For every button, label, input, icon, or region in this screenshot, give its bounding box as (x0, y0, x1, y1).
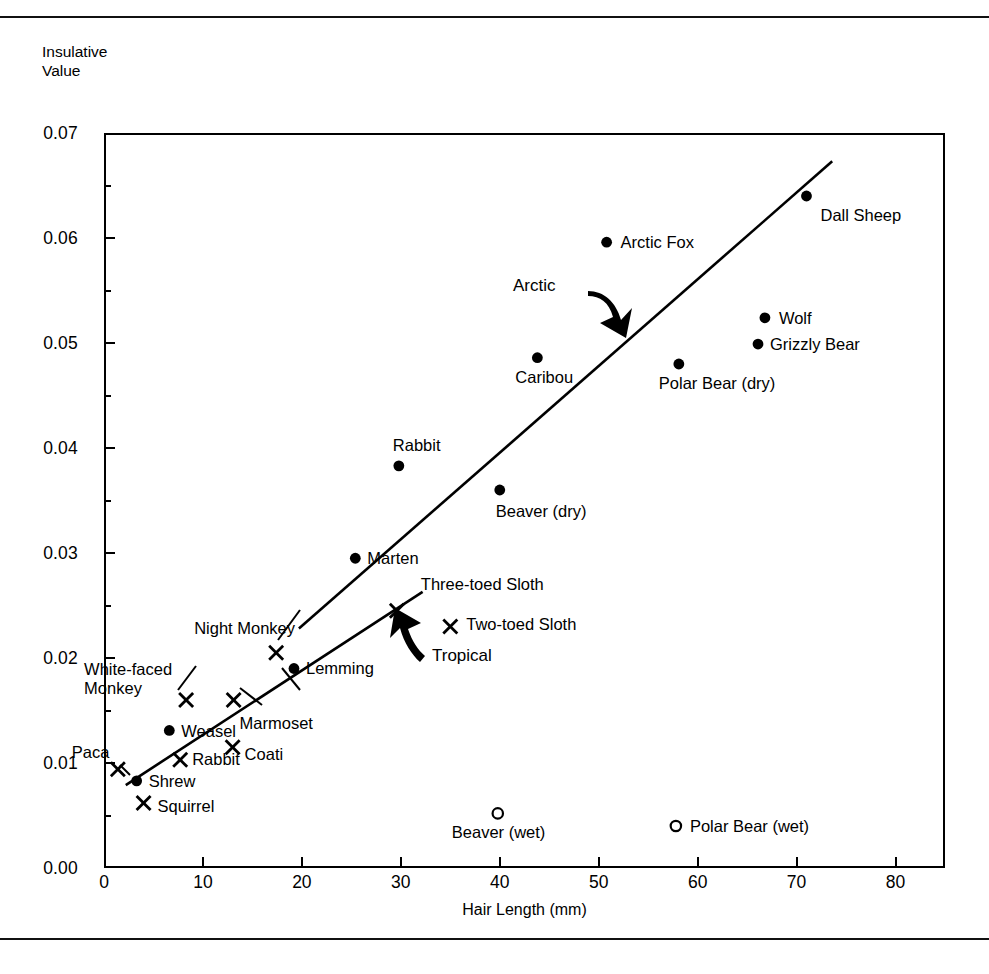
marker-filled-circle-grizzly-bear (753, 339, 764, 350)
marker-cross-paca (111, 762, 125, 776)
point-label-arctic-fox: Arctic Fox (621, 233, 694, 251)
marker-cross-marmoset (227, 693, 241, 707)
annotation-arrow-group (390, 291, 632, 662)
point-label-shrew: Shrew (149, 772, 196, 790)
point-label-beaver-wet: Beaver (wet) (452, 823, 546, 841)
marker-cross-squirrel (137, 796, 151, 810)
point-label-night-monkey: Night Monkey (194, 619, 295, 637)
trendline-group (126, 161, 832, 785)
marker-filled-circle-dall-sheep (801, 191, 812, 202)
leader-line-0 (178, 666, 196, 690)
point-label-beaver-dry: Beaver (dry) (496, 502, 587, 520)
marker-cross-two-toed-sloth (443, 620, 457, 634)
marker-filled-circle-shrew (131, 775, 142, 786)
point-label-dall-sheep: Dall Sheep (820, 206, 901, 224)
tropical-arrow (390, 608, 425, 662)
marker-filled-circle-beaver-dry (494, 485, 505, 496)
marker-open-circle-polar-bear-wet (671, 821, 681, 831)
marker-filled-circle-caribou (532, 352, 543, 363)
arctic-arrow (588, 291, 632, 338)
point-label-three-toed-sloth: Three-toed Sloth (421, 575, 544, 593)
marker-cross-night-monkey (269, 646, 283, 660)
point-label-two-toed-sloth: Two-toed Sloth (466, 615, 576, 633)
point-label-lemming: Lemming (306, 659, 374, 677)
marker-filled-circle-weasel (164, 725, 175, 736)
point-label-squirrel: Squirrel (158, 797, 215, 815)
point-label-wolf: Wolf (779, 309, 812, 327)
point-label-marmoset: Marmoset (240, 714, 313, 732)
marker-filled-circle-lemming (289, 663, 300, 674)
point-label-weasel: Weasel (181, 722, 236, 740)
point-label-polar-bear-wet: Polar Bear (wet) (690, 817, 809, 835)
marker-filled-circle-arctic-fox (601, 237, 612, 248)
marker-cross-rabbit (173, 753, 187, 767)
annotation-arctic: Arctic (513, 276, 556, 296)
point-label-marten: Marten (367, 549, 418, 567)
point-label-polar-bear-dry: Polar Bear (dry) (659, 374, 775, 392)
marker-cross-white-faced-monkey (179, 693, 193, 707)
point-label-caribou: Caribou (515, 368, 573, 386)
point-label-white-faced-monkey: White-faced Monkey (84, 660, 172, 698)
marker-filled-circle-marten (350, 553, 361, 564)
point-label-grizzly-bear: Grizzly Bear (770, 335, 860, 353)
point-label-rabbit: Rabbit (393, 436, 441, 454)
point-label-coati: Coati (245, 745, 284, 763)
figure-container: Insulative Value 0.070.060.050.040.030.0… (0, 0, 989, 974)
annotation-tropical: Tropical (432, 646, 492, 666)
marker-filled-circle-rabbit (393, 460, 404, 471)
marker-filled-circle-polar-bear-dry (673, 359, 684, 370)
marker-filled-circle-wolf (760, 312, 771, 323)
point-label-paca: Paca (72, 743, 110, 761)
point-label-rabbit: Rabbit (192, 750, 240, 768)
marker-open-circle-beaver-wet (493, 808, 503, 818)
